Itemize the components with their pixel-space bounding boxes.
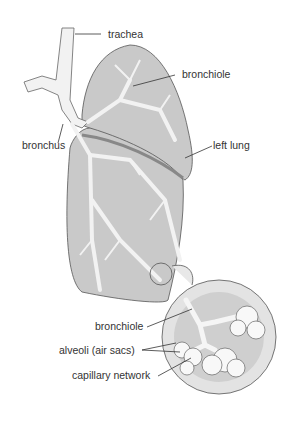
label-bronchiole: bronchiole	[182, 68, 230, 80]
lung-diagram	[0, 0, 292, 425]
label-capillary-network: capillary network	[72, 369, 150, 381]
label-trachea: trachea	[108, 28, 143, 40]
label-bronchiole-inset: bronchiole	[95, 320, 143, 332]
trachea	[24, 28, 88, 128]
label-alveoli: alveoli (air sacs)	[59, 344, 135, 356]
label-bronchus: bronchus	[22, 139, 65, 151]
label-left-lung: left lung	[213, 139, 250, 151]
